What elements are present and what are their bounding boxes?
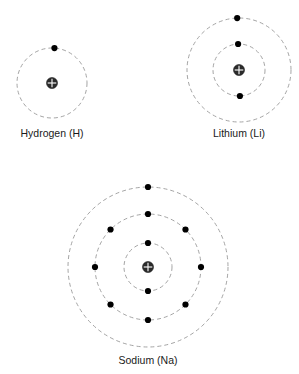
nucleus-sodium (143, 262, 154, 273)
electron-sodium-s1-e2 (145, 288, 151, 294)
electron-lithium-s1-e1 (235, 41, 241, 47)
electron-sodium-s2-e5 (145, 317, 151, 323)
electron-sodium-s2-e1 (145, 211, 151, 217)
nucleus-lithium (234, 65, 245, 76)
atom-sodium: Sodium (Na) (68, 184, 228, 366)
atoms-layer: Hydrogen (H)Lithium (Li)Sodium (Na) (17, 15, 291, 366)
electron-hydrogen-s1-e1 (51, 45, 57, 51)
electron-sodium-s2-e2 (182, 226, 188, 232)
electron-sodium-s2-e8 (107, 226, 113, 232)
electron-sodium-s2-e4 (182, 301, 188, 307)
electron-sodium-s2-e7 (92, 264, 98, 270)
electron-sodium-s3-e1 (145, 184, 151, 190)
electron-sodium-s1-e1 (145, 240, 151, 246)
atom-diagram-figure: Hydrogen (H)Lithium (Li)Sodium (Na) (0, 0, 299, 374)
nucleus-hydrogen (47, 78, 58, 89)
atom-label-lithium: Lithium (Li) (213, 127, 265, 139)
atom-hydrogen: Hydrogen (H) (17, 45, 87, 139)
electron-sodium-s2-e6 (107, 301, 113, 307)
atom-lithium: Lithium (Li) (187, 15, 291, 139)
electron-lithium-s2-e1 (234, 15, 240, 21)
electron-sodium-s2-e3 (198, 264, 204, 270)
atom-label-sodium: Sodium (Na) (119, 354, 178, 366)
electron-lithium-s1-e2 (237, 93, 243, 99)
atom-label-hydrogen: Hydrogen (H) (20, 127, 83, 139)
atom-diagram-canvas: Hydrogen (H)Lithium (Li)Sodium (Na) (0, 0, 299, 374)
